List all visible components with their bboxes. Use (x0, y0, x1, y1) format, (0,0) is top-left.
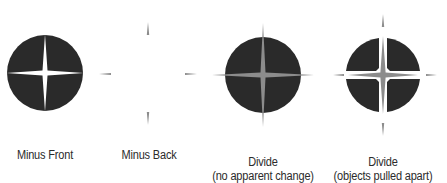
caption-minus-back-line1: Minus Back (109, 148, 188, 162)
divide-no-change-figure (212, 23, 314, 127)
caption-divide-no-change: Divide (no apparent change) (210, 155, 316, 183)
divide-pulled-apart-figure (333, 14, 437, 136)
caption-minus-front: Minus Front (5, 148, 84, 162)
caption-minus-front-line1: Minus Front (5, 148, 84, 162)
minus-front-figure (6, 34, 84, 112)
caption-divide-pulled-apart-line1: Divide (326, 155, 440, 169)
caption-divide-pulled-apart: Divide (objects pulled apart) (326, 155, 440, 183)
caption-divide-pulled-apart-line2: (objects pulled apart) (326, 169, 440, 183)
caption-divide-no-change-line1: Divide (210, 155, 316, 169)
caption-minus-back: Minus Back (109, 148, 188, 162)
caption-divide-no-change-line2: (no apparent change) (210, 169, 316, 183)
minus-back-figure (99, 22, 197, 125)
